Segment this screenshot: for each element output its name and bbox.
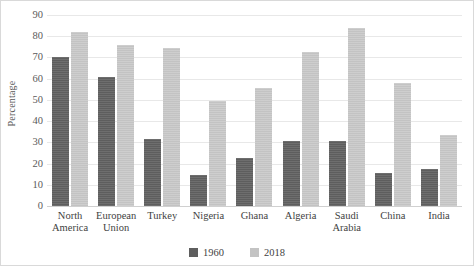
bar[interactable]: [236, 158, 253, 206]
bar-group: [416, 15, 462, 206]
bar-group: [231, 15, 277, 206]
y-tick-label: 30: [3, 137, 43, 148]
legend-item[interactable]: 2018: [250, 247, 285, 258]
y-tick-label: 40: [3, 116, 43, 127]
bars-layer: [47, 15, 462, 206]
y-tick-label: 80: [3, 31, 43, 42]
bar[interactable]: [375, 173, 392, 206]
legend-label: 1960: [203, 247, 224, 258]
x-tick-label: India: [416, 208, 462, 242]
y-axis-ticks: 0102030405060708090: [1, 15, 43, 206]
bar-group: [93, 15, 139, 206]
x-tick-label: Ghana: [231, 208, 277, 242]
chart-legend: 19602018: [1, 242, 473, 262]
y-tick-label: 20: [3, 158, 43, 169]
bar[interactable]: [421, 169, 438, 206]
bar[interactable]: [98, 77, 115, 206]
x-axis-labels: NorthAmericaEuropeanUnionTurkeyNigeriaGh…: [47, 208, 462, 242]
bar[interactable]: [163, 48, 180, 206]
bar[interactable]: [209, 101, 226, 206]
x-tick-label: Nigeria: [185, 208, 231, 242]
bar[interactable]: [440, 135, 457, 206]
bar-group: [185, 15, 231, 206]
bar-group: [47, 15, 93, 206]
bar[interactable]: [394, 83, 411, 206]
y-tick-label: 0: [3, 201, 43, 212]
bar[interactable]: [255, 88, 272, 206]
bar[interactable]: [144, 139, 161, 206]
bar[interactable]: [348, 28, 365, 206]
bar[interactable]: [329, 141, 346, 206]
x-tick-label: China: [370, 208, 416, 242]
bar[interactable]: [52, 57, 69, 206]
bar-group: [278, 15, 324, 206]
x-tick-label: Turkey: [139, 208, 185, 242]
bar-group: [324, 15, 370, 206]
legend-item[interactable]: 1960: [189, 247, 224, 258]
legend-label: 2018: [264, 247, 285, 258]
y-tick-label: 70: [3, 52, 43, 63]
axis-baseline: [47, 206, 462, 207]
legend-swatch-icon: [189, 248, 198, 257]
bar-group: [370, 15, 416, 206]
bar-chart: Percentage 0102030405060708090 NorthAmer…: [0, 0, 474, 266]
bar-group: [139, 15, 185, 206]
legend-swatch-icon: [250, 248, 259, 257]
bar[interactable]: [283, 141, 300, 206]
bar[interactable]: [302, 52, 319, 206]
bar[interactable]: [190, 175, 207, 206]
y-tick-label: 10: [3, 180, 43, 191]
bar[interactable]: [71, 32, 88, 206]
x-tick-label: NorthAmerica: [47, 208, 93, 242]
x-tick-label: Algeria: [278, 208, 324, 242]
x-tick-label: EuropeanUnion: [93, 208, 139, 242]
bar[interactable]: [117, 45, 134, 206]
plot-area: [47, 15, 462, 206]
y-tick-label: 50: [3, 95, 43, 106]
y-tick-label: 60: [3, 73, 43, 84]
x-tick-label: SaudiArabia: [324, 208, 370, 242]
y-tick-label: 90: [3, 10, 43, 21]
